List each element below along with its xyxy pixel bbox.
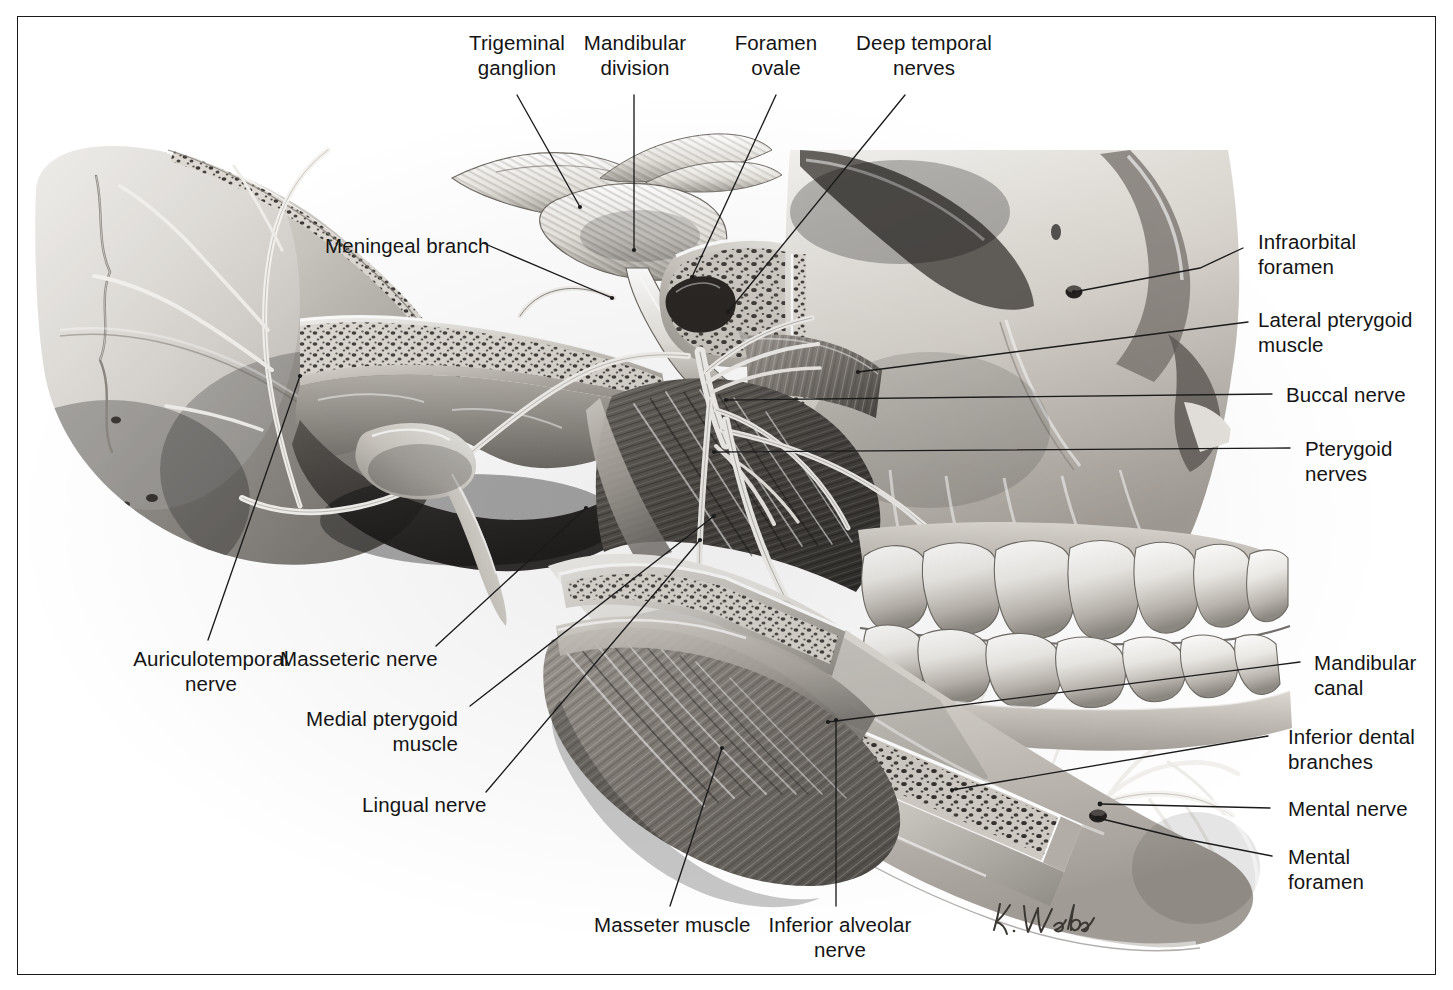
label-inferior-alveolar-nerve: Inferior alveolar nerve [760, 912, 920, 962]
label-pterygoid-nerves: Pterygoid nerves [1305, 436, 1445, 486]
label-mandibular-canal: Mandibular canal [1314, 650, 1453, 700]
label-mental-nerve: Mental nerve [1288, 796, 1448, 821]
label-buccal-nerve: Buccal nerve [1286, 382, 1446, 407]
plate-border [17, 16, 1436, 975]
label-mandibular-division: Mandibular division [560, 30, 710, 80]
label-lingual-nerve: Lingual nerve [362, 792, 532, 817]
label-infraorbital-foramen: Infraorbital foramen [1258, 229, 1443, 279]
label-mental-foramen: Mental foramen [1288, 844, 1428, 894]
label-medial-pterygoid-muscle: Medial pterygoid muscle [258, 706, 458, 756]
label-masseter-muscle: Masseter muscle [594, 912, 774, 937]
label-deep-temporal-nerves: Deep temporal nerves [834, 30, 1014, 80]
label-foramen-ovale: Foramen ovale [710, 30, 842, 80]
anatomy-plate: Trigeminal ganglion Mandibular division … [0, 0, 1453, 990]
label-masseteric-nerve: Masseteric nerve [280, 646, 480, 671]
label-meningeal-branch: Meningeal branch [325, 233, 515, 258]
label-inferior-dental-branches: Inferior dental branches [1288, 724, 1448, 774]
label-lateral-pterygoid-muscle: Lateral pterygoid muscle [1258, 307, 1448, 357]
